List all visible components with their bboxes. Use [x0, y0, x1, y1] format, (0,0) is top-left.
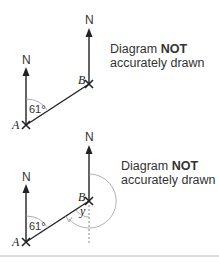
point-b-label: B	[78, 190, 86, 204]
point-b-label: B	[78, 73, 86, 87]
angle-y-label: y	[79, 204, 86, 218]
bearing-arc	[69, 174, 116, 228]
angle-label: 61°	[29, 103, 46, 115]
bearings-diagram: N N 61° A B Diagram NOT accurately drawn…	[0, 0, 219, 263]
north-arrow-icon	[23, 184, 30, 193]
diagram-2: N N 61° y A B Diagram NOT accurately dra…	[11, 130, 216, 249]
north-arrow-icon	[23, 67, 30, 76]
north-arrow-icon	[86, 145, 93, 154]
point-a-label: A	[11, 118, 20, 132]
diagram-1: N N 61° A B Diagram NOT accurately drawn	[11, 13, 205, 132]
note-line-1: Diagram NOT	[121, 159, 198, 173]
note-line-1: Diagram NOT	[110, 42, 187, 56]
point-a-label: A	[11, 235, 20, 249]
north-label-a: N	[22, 170, 31, 184]
note-line-2: accurately drawn	[110, 56, 205, 70]
note-line-2: accurately drawn	[121, 173, 216, 187]
north-label-b: N	[85, 13, 94, 27]
north-label-b: N	[85, 130, 94, 144]
north-label-a: N	[22, 53, 31, 67]
angle-label: 61°	[29, 220, 46, 232]
north-arrow-icon	[86, 28, 93, 37]
